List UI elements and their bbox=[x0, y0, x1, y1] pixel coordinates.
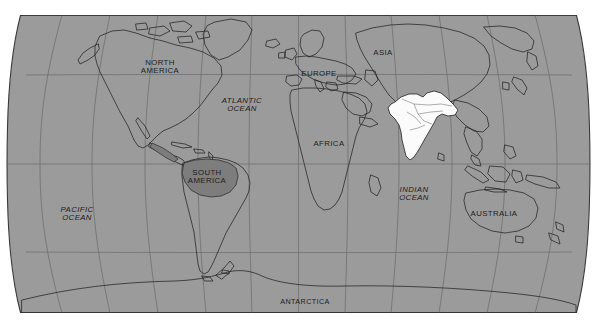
map-canvas[interactable] bbox=[0, 0, 597, 328]
map-svg bbox=[0, 0, 597, 328]
world-map-figure: NORTH AMERICA SOUTH AMERICA EUROPE AFRIC… bbox=[0, 0, 597, 328]
